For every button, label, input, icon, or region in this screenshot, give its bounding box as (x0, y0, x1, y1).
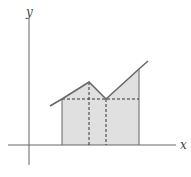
riemann-sum-diagram: y x (0, 0, 191, 177)
y-axis-label: y (25, 5, 33, 19)
x-axis-label: x (180, 138, 187, 152)
